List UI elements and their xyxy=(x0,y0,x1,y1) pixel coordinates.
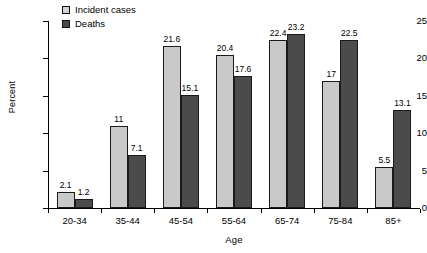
bar-incident-cases xyxy=(216,55,234,208)
legend-swatch-incident-cases-icon xyxy=(62,6,70,14)
x-axis-tick xyxy=(48,209,49,213)
bar-incident-cases xyxy=(269,40,287,208)
x-axis-tick xyxy=(314,209,315,213)
bar-deaths xyxy=(393,110,411,208)
x-axis-category-label: 55-64 xyxy=(204,216,264,226)
bar-value-label: 13.1 xyxy=(388,99,416,108)
bar-deaths xyxy=(128,155,146,208)
x-axis-category-label: 45-54 xyxy=(151,216,211,226)
x-axis-tick xyxy=(367,209,368,213)
bar-deaths xyxy=(287,34,305,208)
y-axis-title: Percent xyxy=(7,67,17,127)
legend-label-incident-cases: Incident cases xyxy=(75,5,136,15)
bar-incident-cases xyxy=(322,81,340,208)
legend-item-incident-cases: Incident cases xyxy=(62,3,136,16)
bar-incident-cases xyxy=(110,126,128,208)
bar-incident-cases xyxy=(375,167,393,208)
bar-value-label: 11 xyxy=(105,115,133,124)
bar-value-label: 23.2 xyxy=(282,23,310,32)
x-axis-tick xyxy=(261,209,262,213)
bar-value-label: 15.1 xyxy=(176,84,204,93)
x-axis-category-label: 75-84 xyxy=(310,216,370,226)
x-axis-tick xyxy=(420,209,421,213)
x-axis-line xyxy=(48,208,420,209)
bar-value-label: 22.5 xyxy=(335,29,363,38)
bar-value-label: 7.1 xyxy=(123,144,151,153)
bar-deaths xyxy=(340,40,358,208)
x-axis-title: Age xyxy=(48,234,420,245)
x-axis-tick xyxy=(101,209,102,213)
bar-value-label: 21.6 xyxy=(158,35,186,44)
plot-area: 2.11.2117.121.615.120.417.622.423.21722.… xyxy=(48,21,420,208)
x-axis-tick xyxy=(207,209,208,213)
x-axis-category-label: 65-74 xyxy=(257,216,317,226)
bar-value-label: 17.6 xyxy=(229,65,257,74)
bar-chart: Incident cases Deaths Percent 0510152025… xyxy=(0,0,427,253)
x-axis-category-label: 85+ xyxy=(363,216,423,226)
x-axis-category-label: 20-34 xyxy=(45,216,105,226)
bar-incident-cases xyxy=(163,46,181,208)
x-axis-category-label: 35-44 xyxy=(98,216,158,226)
bar-value-label: 20.4 xyxy=(211,44,239,53)
bar-deaths xyxy=(75,199,93,208)
bar-deaths xyxy=(181,95,199,208)
x-axis-tick xyxy=(154,209,155,213)
bar-deaths xyxy=(234,76,252,208)
bar-value-label: 1.2 xyxy=(70,188,98,197)
